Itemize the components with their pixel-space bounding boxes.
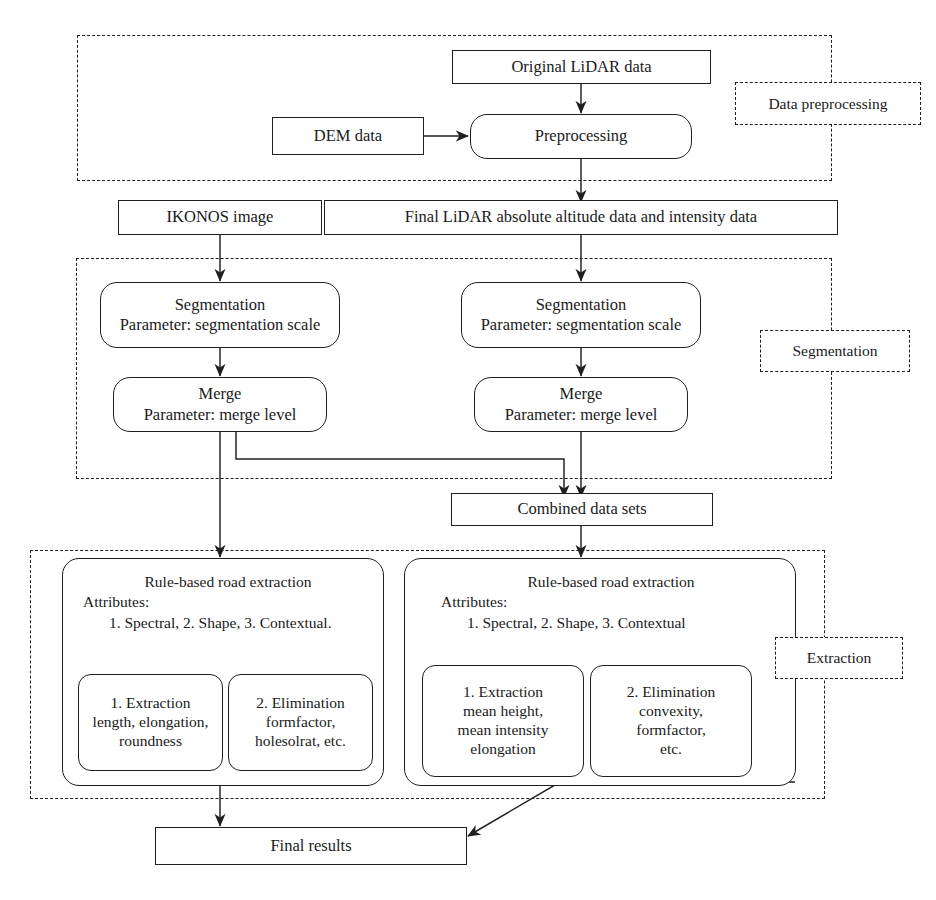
node-original-lidar-data-label: Original LiDAR data	[511, 57, 651, 77]
node-merge-left-line1: Merge	[199, 384, 242, 404]
node-extraction-left-sub-extraction[interactable]: 1. Extraction length, elongation, roundn…	[78, 674, 223, 771]
node-extraction-left-attributes-label: Attributes:	[83, 593, 149, 610]
node-final-lidar-data[interactable]: Final LiDAR absolute altitude data and i…	[324, 200, 838, 235]
stage-label-segmentation-text: Segmentation	[792, 342, 877, 360]
node-segmentation-right-line1: Segmentation	[536, 295, 627, 315]
flowchart-canvas: Data preprocessing Segmentation Extracti…	[0, 0, 936, 900]
node-extraction-right-sub-extraction[interactable]: 1. Extraction mean height, mean intensit…	[422, 665, 584, 777]
node-original-lidar-data[interactable]: Original LiDAR data	[452, 50, 711, 84]
node-segmentation-left-line2: Parameter: segmentation scale	[120, 315, 321, 335]
node-extraction-right-sub-elimination-line3: formfactor,	[636, 721, 706, 740]
stage-label-extraction-text: Extraction	[807, 649, 872, 667]
node-extraction-left-sub-elimination-line3: holesolrat, etc.	[255, 732, 346, 751]
node-extraction-right-attributes-label: Attributes:	[441, 593, 507, 610]
node-merge-left[interactable]: Merge Parameter: merge level	[113, 377, 327, 432]
node-final-lidar-data-label: Final LiDAR absolute altitude data and i…	[405, 207, 757, 227]
node-extraction-right-sub-elimination[interactable]: 2. Elimination convexity, formfactor, et…	[590, 665, 752, 777]
node-extraction-left-title: Rule-based road extraction	[83, 572, 373, 592]
node-extraction-right-sub-elimination-line2: convexity,	[639, 702, 703, 721]
node-final-results[interactable]: Final results	[155, 827, 467, 865]
node-combined-data-sets[interactable]: Combined data sets	[451, 493, 713, 526]
node-extraction-left-sub-extraction-line3: roundness	[119, 732, 182, 751]
node-segmentation-left[interactable]: Segmentation Parameter: segmentation sca…	[100, 282, 340, 348]
node-merge-right-line2: Parameter: merge level	[505, 405, 658, 425]
node-extraction-left-sub-elimination-line2: formfactor,	[266, 713, 336, 732]
node-extraction-right-sub-extraction-line1: 1. Extraction	[463, 683, 543, 702]
stage-label-data-preprocessing: Data preprocessing	[735, 82, 921, 125]
node-ikonos-image[interactable]: IKONOS image	[118, 200, 322, 235]
node-extraction-left-sub-elimination[interactable]: 2. Elimination formfactor, holesolrat, e…	[228, 674, 373, 771]
node-extraction-right-title: Rule-based road extraction	[441, 572, 781, 592]
node-segmentation-right[interactable]: Segmentation Parameter: segmentation sca…	[461, 282, 701, 348]
node-extraction-left-sub-extraction-line2: length, elongation,	[93, 713, 209, 732]
node-extraction-right-sub-extraction-line4: elongation	[470, 740, 535, 759]
stage-label-segmentation: Segmentation	[760, 330, 910, 372]
node-extraction-right-attributes-list: 1. Spectral, 2. Shape, 3. Contextual	[441, 613, 781, 633]
node-merge-left-line2: Parameter: merge level	[144, 405, 297, 425]
node-combined-data-sets-label: Combined data sets	[517, 499, 646, 519]
node-extraction-right-sub-elimination-line4: etc.	[660, 740, 682, 759]
node-extraction-left-attributes-list: 1. Spectral, 2. Shape, 3. Contextual.	[83, 613, 373, 633]
node-extraction-left-sub-extraction-line1: 1. Extraction	[110, 694, 190, 713]
stage-label-extraction: Extraction	[775, 637, 903, 679]
node-merge-right-line1: Merge	[560, 384, 603, 404]
node-dem-data-label: DEM data	[314, 126, 382, 146]
node-dem-data[interactable]: DEM data	[272, 117, 424, 155]
node-extraction-right-sub-elimination-line1: 2. Elimination	[627, 683, 716, 702]
node-segmentation-left-line1: Segmentation	[175, 295, 266, 315]
node-preprocessing-label: Preprocessing	[535, 126, 628, 146]
node-segmentation-right-line2: Parameter: segmentation scale	[481, 315, 682, 335]
stage-label-data-preprocessing-text: Data preprocessing	[768, 95, 887, 113]
node-merge-right[interactable]: Merge Parameter: merge level	[474, 377, 688, 432]
node-final-results-label: Final results	[270, 836, 351, 856]
node-extraction-left-sub-elimination-line1: 2. Elimination	[256, 694, 345, 713]
node-preprocessing[interactable]: Preprocessing	[470, 114, 692, 159]
node-extraction-right-sub-extraction-line3: mean intensity	[458, 721, 549, 740]
node-ikonos-image-label: IKONOS image	[167, 207, 274, 227]
node-extraction-right-sub-extraction-line2: mean height,	[463, 702, 543, 721]
